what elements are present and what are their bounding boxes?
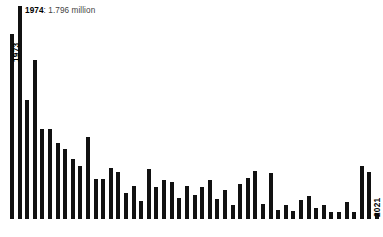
bar [231, 205, 235, 219]
bar [56, 143, 60, 219]
bar [291, 211, 295, 219]
bar [109, 168, 113, 219]
bar [94, 179, 98, 219]
bar [116, 172, 120, 219]
bar [18, 6, 22, 219]
chart-plot-area [0, 0, 383, 219]
bar [307, 196, 311, 219]
bar [352, 212, 356, 219]
bar [86, 137, 90, 219]
bar [132, 186, 136, 219]
bar [238, 184, 242, 220]
bar [284, 205, 288, 219]
bar [367, 172, 371, 219]
bar [177, 198, 181, 219]
bar [33, 60, 37, 219]
bar [200, 187, 204, 219]
bar [170, 182, 174, 219]
bar [71, 159, 75, 219]
axis-label-start-year: 1973 [11, 43, 21, 62]
axis-label-end-year: 2021 [372, 198, 382, 217]
annotation-value-label: : 1.796 million [44, 6, 96, 15]
bar [185, 186, 189, 219]
bar-chart: 1974: 1.796 million 1973 2021 [0, 0, 383, 237]
bar [63, 149, 67, 219]
bar [154, 187, 158, 219]
bar [337, 212, 341, 219]
bar [124, 193, 128, 219]
bar [147, 169, 151, 219]
bar [269, 173, 273, 219]
bar [101, 179, 105, 219]
bar [345, 202, 349, 219]
bar [246, 178, 250, 219]
bar [193, 195, 197, 219]
bar [314, 208, 318, 219]
bar [48, 129, 52, 219]
bar [208, 180, 212, 219]
bar [78, 166, 82, 219]
bar [253, 171, 257, 219]
bar [162, 180, 166, 219]
bar [261, 204, 265, 219]
bar [299, 200, 303, 219]
bar [276, 210, 280, 219]
bar [322, 205, 326, 219]
annotation-year-label: 1974 [25, 6, 44, 15]
bar [25, 100, 29, 219]
bar [139, 201, 143, 219]
bar [329, 212, 333, 219]
bar [40, 129, 44, 219]
bar [360, 166, 364, 219]
bar [215, 199, 219, 219]
bar [223, 190, 227, 219]
peak-annotation: 1974: 1.796 million [25, 5, 95, 16]
